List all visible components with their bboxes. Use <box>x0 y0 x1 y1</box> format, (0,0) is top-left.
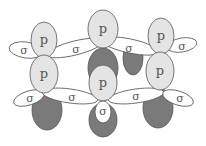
label-sigma-bottom-mid-right: σ <box>132 90 140 103</box>
label-sigma-far-right-bottom: σ <box>176 92 184 105</box>
label-p-upper-left-top: p <box>40 32 48 47</box>
label-sigma-far-right-top: σ <box>178 40 186 53</box>
label-sigma-far-left-bottom: σ <box>26 92 34 105</box>
label-p-top-center: p <box>99 21 107 36</box>
label-sigma-lower-center: σ <box>99 105 107 118</box>
label-sigma-top-right: σ <box>125 42 133 55</box>
label-sigma-far-left-top: σ <box>20 44 28 57</box>
label-sigma-top-left: σ <box>72 43 80 56</box>
label-p-bottom-center: p <box>99 75 107 90</box>
label-sigma-bottom-left: σ <box>68 91 76 104</box>
label-p-upper-right-top: p <box>157 28 165 43</box>
label-p-upper-left-bottom: p <box>40 66 48 81</box>
benzene-orbital-diagram: p p p p p p σ σ σ σ σ σ σ σ σ <box>0 0 206 146</box>
label-p-upper-right-bottom: p <box>156 63 164 78</box>
